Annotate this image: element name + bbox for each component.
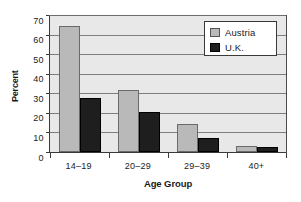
y-axis-tick-labels: 010203040506070 (22, 10, 44, 158)
x-axis-tick-mark (109, 153, 110, 158)
y-axis-tick-mark (46, 113, 50, 114)
legend-label: Austria (225, 27, 255, 38)
legend-label: U.K. (225, 42, 244, 53)
legend-entry: U.K. (210, 40, 276, 54)
bar-uk-2 (198, 138, 219, 152)
bar-uk-0 (80, 98, 101, 152)
x-axis-tick-mark (50, 153, 51, 158)
x-axis-tick-mark (286, 153, 287, 158)
x-axis-tick-mark (168, 153, 169, 158)
bar-austria-3 (236, 146, 257, 152)
y-axis-tick-label: 60 (22, 35, 44, 45)
y-axis-tick-mark (46, 35, 50, 36)
y-axis-tick-label: 30 (22, 94, 44, 104)
y-axis-title: Percent (8, 46, 22, 126)
y-axis-tick-mark (46, 93, 50, 94)
bar-austria-0 (59, 26, 80, 152)
x-axis-tick-label: 14–19 (49, 161, 109, 171)
plot-top-border (49, 15, 287, 16)
legend-entry: Austria (210, 25, 276, 39)
y-axis-tick-label: 20 (22, 113, 44, 123)
y-axis-tick-label: 70 (22, 16, 44, 26)
bar-austria-2 (177, 124, 198, 152)
y-axis-tick-label: 10 (22, 133, 44, 143)
y-axis-tick-label: 50 (22, 55, 44, 65)
legend-swatch-austria (210, 28, 220, 37)
bar-uk-1 (139, 112, 160, 152)
plot-right-border (286, 15, 287, 153)
y-axis-tick-mark (46, 54, 50, 55)
y-axis-tick-label: 0 (22, 153, 44, 163)
y-axis-tick-mark (46, 132, 50, 133)
legend-swatch-uk (210, 43, 220, 52)
chart-legend: AustriaU.K. (204, 21, 277, 56)
x-axis-tick-mark (227, 153, 228, 158)
bar-group (59, 15, 101, 152)
x-axis-title: Age Group (49, 178, 287, 189)
y-axis-tick-mark (46, 74, 50, 75)
bar-uk-3 (257, 147, 278, 152)
bar-chart-figure: Percent 010203040506070 14–1920–2929–394… (0, 0, 301, 202)
bar-group (118, 15, 160, 152)
x-axis-tick-label: 29–39 (167, 161, 227, 171)
y-axis-tick-label: 40 (22, 74, 44, 84)
x-axis-tick-label: 20–29 (108, 161, 168, 171)
x-axis-tick-label: 40+ (226, 161, 286, 171)
bar-austria-1 (118, 90, 139, 152)
